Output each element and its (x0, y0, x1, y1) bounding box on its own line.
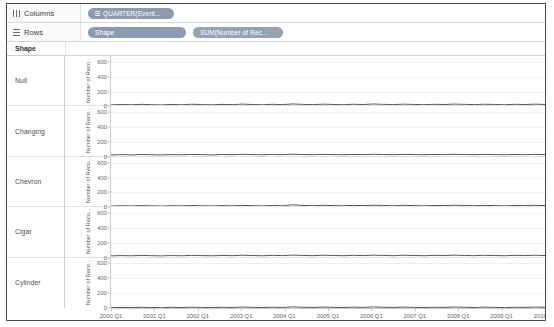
y-tick-mark (108, 127, 110, 128)
y-tick-mark (108, 307, 110, 308)
y-tick-mark (108, 112, 110, 113)
x-axis-scale: Quarter of Event Date 2000 Q12001 Q12002… (111, 308, 545, 321)
y-axis-title: Number of Reco.. (85, 109, 91, 154)
row-header-cell-changing[interactable]: Changing (7, 106, 64, 156)
y-tick-mark (108, 192, 110, 193)
y-tick-mark (108, 242, 110, 243)
y-axis-title: Number of Reco.. (85, 58, 91, 103)
y-tick-label: 600 (97, 109, 107, 115)
row-header-cell-cylinder[interactable]: Cylinder (7, 258, 64, 308)
x-tick-label: 2009 Q1 (490, 313, 513, 319)
line-series-changing (111, 106, 545, 155)
pill-shape[interactable]: Shape (88, 27, 186, 38)
shape-header-title: Shape (7, 45, 65, 52)
columns-bars-icon (13, 10, 20, 17)
y-axis-chevron: Number of Reco..0200400600 (65, 157, 111, 206)
y-tick-mark (108, 278, 110, 279)
y-tick-mark (108, 91, 110, 92)
rows-shelf[interactable]: Rows Shape SUM(Number of Rec... (7, 23, 545, 42)
x-axis-left-pad (7, 308, 111, 321)
x-tick-mark (198, 309, 199, 311)
y-tick-label: 600 (97, 160, 107, 166)
y-tick-label: 0 (104, 305, 107, 311)
pill-sum-number-of-records[interactable]: SUM(Number of Rec... (193, 27, 283, 38)
viz-body: NullChangingChevronCigarCylinder Number … (7, 56, 545, 308)
x-tick-mark (154, 309, 155, 311)
pill-label: SUM(Number of Rec... (200, 29, 268, 36)
y-axis-cylinder: Number of Reco..0200400600 (65, 258, 111, 308)
plot-area-cigar[interactable] (111, 207, 545, 256)
x-tick-label: 2000 Q1 (100, 313, 123, 319)
x-tick-label: 2006 Q1 (360, 313, 383, 319)
y-tick-label: 200 (97, 139, 107, 145)
x-tick-mark (328, 309, 329, 311)
y-axis-title: Number of Reco.. (85, 159, 91, 204)
row-header-cell-label: Null (15, 77, 27, 84)
x-tick-mark (458, 309, 459, 311)
y-axis-changing: Number of Reco..0200400600 (65, 106, 111, 155)
pill-quarter-event-date[interactable]: QUARTER(Event... (88, 8, 174, 19)
pill-label: QUARTER(Event... (103, 10, 160, 17)
y-tick-mark (108, 61, 110, 62)
y-axis-cigar: Number of Reco..0200400600 (65, 207, 111, 256)
shape-header-spacer (65, 42, 545, 55)
y-axis-null: Number of Reco..0200400600 (65, 56, 111, 105)
columns-shelf-label: Columns (7, 4, 81, 22)
row-header-cell-label: Cigar (15, 228, 32, 235)
line-series-cylinder (111, 258, 545, 308)
plot-area-cylinder[interactable] (111, 258, 545, 308)
pill-label: Shape (95, 29, 114, 36)
y-tick-label: 600 (97, 210, 107, 216)
columns-shelf[interactable]: Columns QUARTER(Event... (7, 4, 545, 23)
line-series-cigar (111, 207, 545, 256)
row-header-cell-label: Cylinder (15, 279, 41, 286)
y-tick-mark (108, 177, 110, 178)
y-tick-label: 200 (97, 89, 107, 95)
panel-cigar: Number of Reco..0200400600 (65, 207, 545, 257)
y-tick-label: 400 (97, 124, 107, 130)
plot-area-chevron[interactable] (111, 157, 545, 206)
row-header-cell-null[interactable]: Null (7, 56, 64, 106)
y-axis-title: Number of Reco.. (85, 210, 91, 255)
y-tick-mark (108, 263, 110, 264)
y-tick-mark (108, 162, 110, 163)
plot-area-null[interactable] (111, 56, 545, 105)
y-tick-label: 600 (97, 260, 107, 266)
x-axis: Quarter of Event Date 2000 Q12001 Q12002… (7, 308, 545, 321)
panel-stack: Number of Reco..0200400600Number of Reco… (65, 56, 545, 308)
x-tick-mark (285, 309, 286, 311)
x-tick-label: 2010 Q1 (534, 313, 546, 319)
x-tick-mark (545, 309, 546, 311)
x-tick-label: 2003 Q1 (230, 313, 253, 319)
x-tick-label: 2005 Q1 (317, 313, 340, 319)
plot-area-changing[interactable] (111, 106, 545, 155)
y-tick-mark (108, 227, 110, 228)
rows-shelf-label: Rows (7, 23, 81, 41)
x-tick-mark (371, 309, 372, 311)
rows-pill-area[interactable]: Shape SUM(Number of Rec... (81, 23, 283, 41)
pill-grip-icon (95, 11, 100, 16)
y-tick-label: 400 (97, 275, 107, 281)
row-header-cell-cigar[interactable]: Cigar (7, 207, 64, 257)
x-tick-label: 2004 Q1 (273, 313, 296, 319)
x-tick-mark (502, 309, 503, 311)
y-tick-mark (108, 213, 110, 214)
tableau-worksheet: Columns QUARTER(Event... Rows Shape SUM(… (6, 3, 546, 321)
x-tick-label: 2002 Q1 (186, 313, 209, 319)
y-tick-label: 200 (97, 240, 107, 246)
y-axis-title: Number of Reco.. (85, 260, 91, 305)
row-header-cell-chevron[interactable]: Chevron (7, 157, 64, 207)
y-tick-mark (108, 141, 110, 142)
columns-pill-area[interactable]: QUARTER(Event... (81, 4, 174, 22)
y-tick-label: 600 (97, 59, 107, 65)
panel-cylinder: Number of Reco..0200400600 (65, 258, 545, 308)
panel-chevron: Number of Reco..0200400600 (65, 157, 545, 207)
x-tick-mark (111, 309, 112, 311)
shape-field-header: Shape (7, 42, 545, 56)
x-tick-label: 2007 Q1 (403, 313, 426, 319)
rows-label-text: Rows (24, 28, 43, 37)
panel-null: Number of Reco..0200400600 (65, 56, 545, 106)
y-tick-mark (108, 76, 110, 77)
x-tick-mark (241, 309, 242, 311)
row-header-cell-label: Chevron (15, 178, 41, 185)
